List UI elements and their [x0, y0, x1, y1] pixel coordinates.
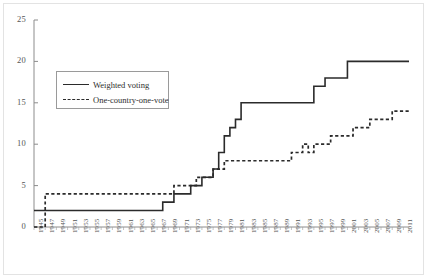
y-axis-tick-marks [34, 20, 38, 227]
legend-swatch-solid-line [63, 82, 89, 88]
legend-label-weighted-voting: Weighted voting [93, 80, 149, 90]
series-line-one-country-one-vote [34, 111, 409, 227]
legend-swatch-dashed-line [63, 97, 89, 103]
axis-lines [34, 20, 409, 227]
plot-area [0, 0, 427, 278]
chart-legend: Weighted voting One-country-one-vote [56, 71, 169, 109]
chart-container: 0510152025 19451947194919511953195519571… [0, 0, 427, 278]
legend-entry-one-country-one-vote: One-country-one-vote [63, 93, 169, 107]
legend-entry-weighted-voting: Weighted voting [63, 78, 149, 92]
legend-label-one-country-one-vote: One-country-one-vote [93, 95, 169, 105]
